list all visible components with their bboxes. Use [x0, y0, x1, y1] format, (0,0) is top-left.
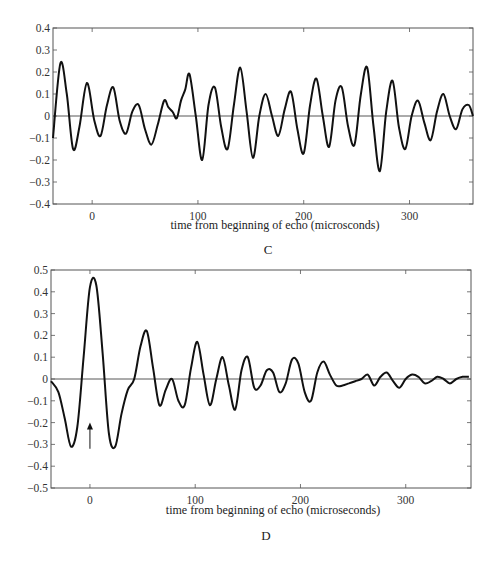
y-tick-label: 0.4	[36, 22, 51, 34]
y-tick-label: −0.2	[27, 417, 48, 429]
y-tick-label: −0.5	[27, 482, 48, 494]
x-tick-label: 0	[89, 210, 95, 222]
y-tick-label: 0.2	[34, 329, 49, 341]
y-tick-label: −0.4	[29, 198, 50, 210]
y-tick-label: −0.1	[27, 395, 48, 407]
y-tick-label: 0.3	[36, 44, 51, 56]
panel-caption: C	[264, 242, 273, 257]
waveform-line	[51, 278, 469, 448]
waveform-line	[53, 62, 473, 171]
y-tick-label: −0.2	[29, 154, 50, 166]
y-tick-label: 0.2	[36, 66, 51, 78]
y-tick-label: 0	[44, 110, 50, 122]
y-tick-label: −0.1	[29, 132, 50, 144]
y-tick-label: 0.1	[36, 88, 51, 100]
chart-panel-c: 0.40.30.20.10−0.1−0.2−0.3−0.40100200300t…	[29, 22, 473, 257]
x-axis-label: time from beginning of echo (microsconds…	[171, 218, 380, 232]
chart-panel-d: 0.50.40.30.20.10−0.1−0.2−0.3−0.4−0.50100…	[27, 264, 471, 543]
panel-caption: D	[261, 528, 270, 543]
y-tick-label: 0	[42, 373, 48, 385]
x-axis-label: time from beginning of echo (microsecond…	[166, 503, 380, 517]
y-tick-label: 0.4	[34, 286, 49, 298]
x-tick-label: 0	[87, 494, 93, 506]
y-tick-label: −0.4	[27, 460, 48, 472]
y-tick-label: −0.3	[27, 438, 48, 450]
arrow-up-icon	[87, 423, 93, 430]
x-tick-label: 300	[397, 494, 415, 506]
x-tick-label: 300	[401, 210, 419, 222]
figure: 0.40.30.20.10−0.1−0.2−0.3−0.40100200300t…	[0, 0, 494, 561]
y-tick-label: 0.1	[34, 351, 49, 363]
y-tick-label: −0.3	[29, 176, 50, 188]
y-tick-label: 0.5	[34, 264, 49, 276]
y-tick-label: 0.3	[34, 308, 49, 320]
